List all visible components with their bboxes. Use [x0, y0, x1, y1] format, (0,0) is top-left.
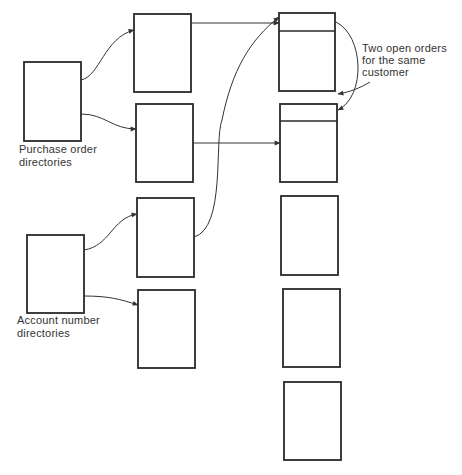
index-block-2 — [136, 104, 193, 182]
arrow-acct-to-index-4 — [84, 296, 138, 305]
order-record-3 — [281, 196, 338, 275]
order-record-5 — [284, 382, 341, 460]
account-number-directory-box — [27, 235, 84, 313]
index-block-3 — [137, 198, 194, 277]
account-number-directories-label: Account number directories — [17, 314, 103, 339]
arrow-po-to-index-2 — [81, 114, 136, 129]
index-block-1 — [134, 14, 191, 92]
order-record-4 — [283, 289, 340, 367]
arrow-acct-to-index-3 — [84, 214, 137, 250]
order-record-2 — [280, 104, 337, 182]
purchase-order-directories-label: Purchase order directories — [19, 143, 100, 168]
two-open-orders-annotation: Two open orders for the same customer — [362, 42, 450, 78]
order-record-1 — [279, 13, 335, 91]
arrow-index-3-to-order-1 — [194, 17, 279, 237]
arrow-order-1-to-order-2-chain — [336, 22, 358, 110]
index-block-4 — [138, 290, 195, 368]
directory-structure-diagram: Purchase order directories Account numbe… — [0, 0, 462, 475]
purchase-order-directory-box — [24, 62, 81, 141]
arrow-po-to-index-1 — [81, 30, 134, 80]
